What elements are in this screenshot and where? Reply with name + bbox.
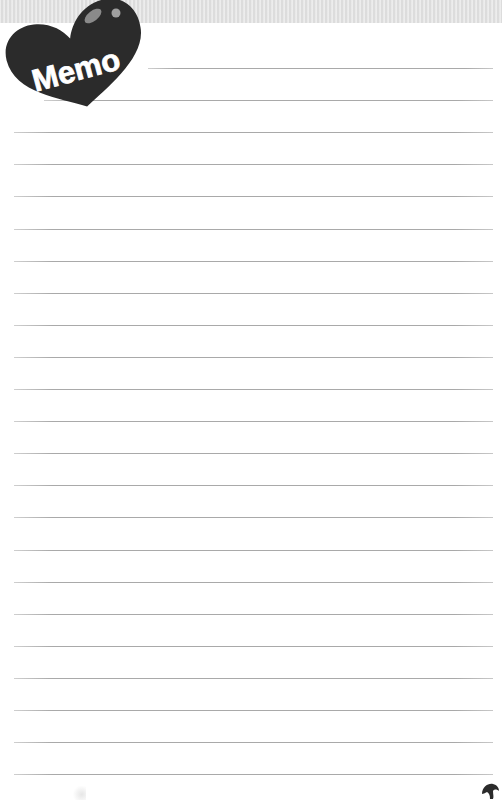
ruled-line [14, 164, 493, 165]
ruled-lines [0, 0, 502, 801]
ruled-line [14, 293, 493, 294]
ruled-line [14, 389, 493, 390]
ruled-line [14, 550, 493, 551]
ruled-line [14, 261, 493, 262]
ruled-line [14, 582, 493, 583]
heart-icon: Memo [0, 0, 150, 115]
leaf-mark-icon [480, 782, 500, 800]
ruled-line [14, 325, 493, 326]
smudge-mark [72, 786, 86, 800]
ruled-line [14, 646, 493, 647]
ruled-line [14, 517, 493, 518]
ruled-line [14, 774, 493, 775]
ruled-line [14, 132, 493, 133]
ruled-line [14, 678, 493, 679]
ruled-line [14, 485, 493, 486]
ruled-line [14, 196, 493, 197]
memo-badge: Memo [0, 0, 150, 115]
ruled-line [14, 357, 493, 358]
ruled-line [14, 710, 493, 711]
ruled-line [14, 421, 493, 422]
ruled-line [14, 614, 493, 615]
ruled-line [14, 742, 493, 743]
ruled-line [14, 229, 493, 230]
ruled-line [14, 453, 493, 454]
ruled-line [148, 68, 493, 69]
